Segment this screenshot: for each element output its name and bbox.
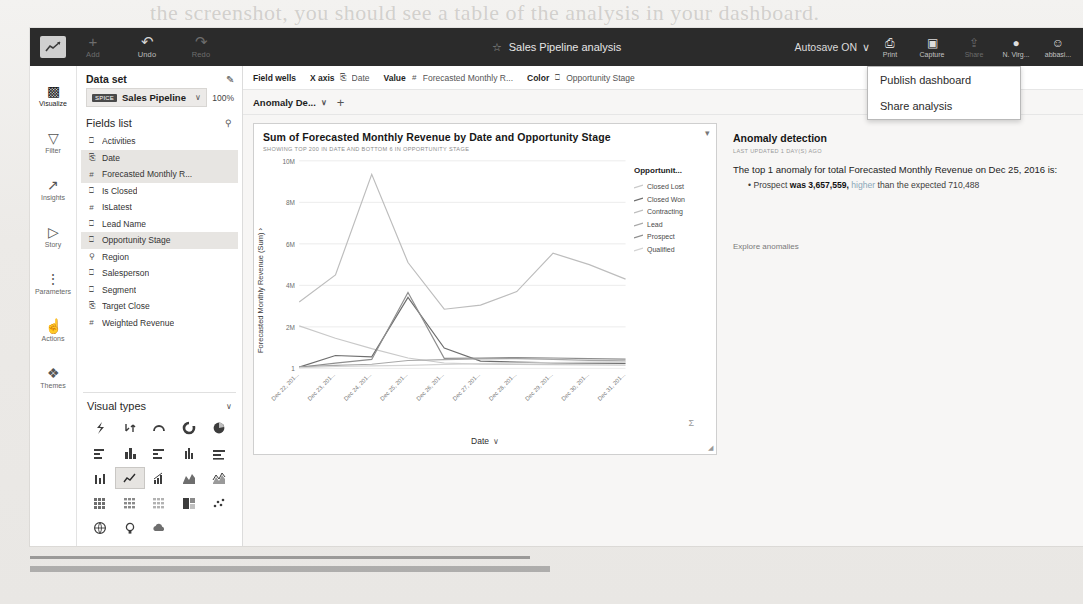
legend-item[interactable]: Prospect [634, 233, 712, 240]
sheet-tab-anomaly-detection[interactable]: Anomaly De... ∨ [253, 97, 327, 108]
search-icon[interactable]: ⚲ [225, 118, 232, 128]
series-line[interactable] [299, 297, 625, 367]
redo-button[interactable]: ↷ Redo [174, 28, 228, 66]
y-axis-title[interactable]: Forecasted Monthly Revenue (Sum) › [254, 152, 267, 428]
favorite-star-icon[interactable]: ☆ [492, 41, 502, 54]
main-canvas-area: Field wells X axis ⎘ Date Value # Foreca… [243, 66, 1083, 546]
pencil-icon[interactable]: ✎ [226, 74, 234, 85]
legend-item[interactable]: Qualified [634, 246, 712, 253]
visual-title: Sum of Forecasted Monthly Revenue by Dat… [254, 124, 716, 143]
series-line[interactable] [299, 174, 625, 309]
sidebar-label-visualize: Visualize [39, 100, 67, 107]
capture-button[interactable]: ▣ Capture [911, 28, 953, 66]
undo-button[interactable]: ↶ Undo [120, 28, 174, 66]
stacked-area-icon[interactable] [205, 468, 233, 488]
x-tick-label: Dec 31, 201... [597, 371, 627, 402]
field-item[interactable]: ⎕Salesperson [81, 265, 238, 282]
geo-field-icon: ⚲ [87, 252, 96, 261]
combo-bar-icon[interactable] [86, 468, 114, 488]
heat-map-icon[interactable] [86, 493, 114, 513]
x-axis-title[interactable]: Date ∨ [254, 428, 716, 454]
quicksight-app-window: + Add ↶ Undo ↷ Redo ☆ Sales Pipeline ana… [30, 28, 1083, 546]
field-item[interactable]: ⚲Region [81, 249, 238, 266]
value-field: Forecasted Monthly R... [423, 73, 513, 83]
chevron-down-icon[interactable]: ∨ [226, 402, 232, 411]
geospatial-map-icon[interactable] [86, 518, 114, 538]
sidebar-item-actions[interactable]: ☝ Actions [30, 307, 76, 353]
app-body: ▩ Visualize ▽ Filter ↗ Insights ▷ Story … [30, 66, 1083, 546]
area-line-icon[interactable] [175, 468, 203, 488]
story-play-icon: ▷ [48, 225, 59, 239]
vertical-bar-icon[interactable] [116, 443, 144, 463]
kpi-icon[interactable] [116, 418, 144, 438]
line-chart-icon[interactable] [116, 468, 144, 488]
table-icon[interactable] [146, 493, 174, 513]
pie-icon[interactable] [205, 418, 233, 438]
print-icon: ⎙ [885, 37, 895, 49]
date-field-icon: ⎘ [87, 153, 96, 163]
sidebar-item-visualize[interactable]: ▩ Visualize [30, 72, 76, 118]
print-label: Print [883, 51, 897, 58]
stacked-horizontal-bar-icon[interactable] [146, 443, 174, 463]
plot-area: 12M4M6M8M10MDec 22, 201...Dec 23, 201...… [267, 152, 632, 428]
field-well-value[interactable]: Value # Forecasted Monthly R... [384, 73, 513, 83]
explore-anomalies-link[interactable]: Explore anomalies [733, 242, 1065, 251]
insight-bulb-icon[interactable] [116, 518, 144, 538]
sidebar-item-parameters[interactable]: ⋮ Parameters [30, 260, 76, 306]
color-field: Opportunity Stage [566, 73, 635, 83]
analysis-title[interactable]: Sales Pipeline analysis [509, 41, 622, 53]
dataset-name: Sales Pipeline [122, 92, 190, 103]
field-item[interactable]: ⎕Activities [81, 133, 238, 150]
field-item[interactable]: ⎕Lead Name [81, 216, 238, 233]
legend-item[interactable]: Lead [634, 221, 712, 228]
share-button[interactable]: ⇪ Share [953, 28, 995, 66]
legend-item[interactable]: Closed Lost [634, 183, 712, 190]
sidebar-item-story[interactable]: ▷ Story [30, 213, 76, 259]
sidebar-item-filter[interactable]: ▽ Filter [30, 119, 76, 165]
visual-menu-chevron-down-icon[interactable]: ▾ [705, 128, 710, 138]
sidebar-item-insights[interactable]: ↗ Insights [30, 166, 76, 212]
autograph-icon[interactable] [86, 418, 114, 438]
sidebar-item-themes[interactable]: ❖ Themes [30, 354, 76, 400]
user-menu-button[interactable]: ☺ abbasi... [1037, 28, 1079, 66]
add-button[interactable]: + Add [66, 28, 120, 66]
field-item[interactable]: ⎕Segment [81, 282, 238, 299]
donut-icon[interactable] [175, 418, 203, 438]
legend-item[interactable]: Closed Won [634, 196, 712, 203]
horizontal-bar-icon[interactable] [86, 443, 114, 463]
pivot-table-icon[interactable] [116, 493, 144, 513]
autosave-label: Autosave ON [795, 41, 857, 53]
field-well-color[interactable]: Color ⎕ Opportunity Stage [527, 73, 635, 83]
print-button[interactable]: ⎙ Print [869, 28, 911, 66]
string-field-icon: ⎕ [553, 73, 562, 83]
line-chart-visual[interactable]: ▾ Sum of Forecasted Monthly Revenue by D… [253, 123, 717, 455]
menu-item-publish-dashboard[interactable]: Publish dashboard [868, 67, 1020, 93]
clustered-column-icon[interactable] [175, 443, 203, 463]
field-item[interactable]: ⎘Target Close [81, 298, 238, 315]
field-item[interactable]: ⎕Opportunity Stage [81, 232, 238, 249]
field-item[interactable]: ⎘Date [81, 150, 238, 167]
menu-item-share-analysis[interactable]: Share analysis [868, 93, 1020, 119]
field-well-x-axis[interactable]: X axis ⎘ Date [310, 73, 370, 83]
legend-item[interactable]: Contracting [634, 208, 712, 215]
field-item[interactable]: #IsLatest [81, 199, 238, 216]
autosave-toggle[interactable]: Autosave ON ∨ [795, 28, 870, 66]
bar-line-combo-icon[interactable] [146, 468, 174, 488]
left-icon-rail: ▩ Visualize ▽ Filter ↗ Insights ▷ Story … [30, 66, 77, 546]
scatter-plot-icon[interactable] [205, 493, 233, 513]
field-item[interactable]: ⎕Is Closed [81, 183, 238, 200]
word-cloud-icon[interactable] [146, 518, 174, 538]
dataset-select[interactable]: SPICE Sales Pipeline ∨ [86, 88, 207, 107]
resize-handle-icon[interactable]: ◢ [708, 444, 713, 452]
field-item[interactable]: #Forecasted Monthly R... [81, 166, 238, 183]
string-field-icon: ⎕ [87, 136, 96, 146]
sum-sigma-icon[interactable]: Σ [688, 418, 694, 428]
stacked-bar-icon[interactable] [205, 443, 233, 463]
x-tick-label: Dec 30, 201... [560, 371, 590, 402]
add-sheet-button[interactable]: + [337, 95, 345, 110]
y-tick-label: 4M [286, 282, 295, 289]
field-item[interactable]: #Weighted Revenue [81, 315, 238, 332]
tree-map-icon[interactable] [175, 493, 203, 513]
region-button[interactable]: ● N. Virg... [995, 28, 1037, 66]
gauge-icon[interactable] [146, 418, 174, 438]
